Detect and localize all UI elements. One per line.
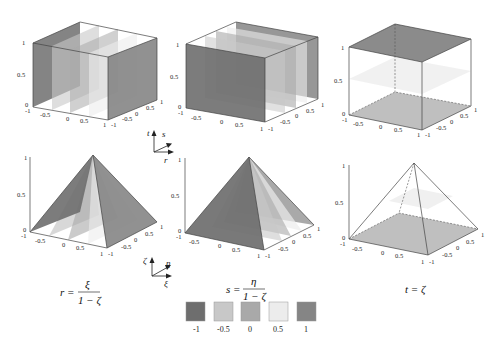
x-tick: -0.5 — [352, 245, 362, 252]
y-tick: 0.5 — [303, 232, 311, 239]
axis-label-r: r — [164, 155, 168, 165]
legend-swatch-minus-1 — [186, 302, 205, 321]
y-tick: -0.5 — [122, 115, 132, 122]
x-tick: 0.5 — [235, 121, 243, 128]
legend-swatch-0-5 — [269, 302, 288, 321]
y-tick: 0.5 — [306, 107, 314, 114]
z-tick: 0.5 — [171, 192, 179, 199]
y-tick: 1 — [160, 98, 163, 105]
z-tick: 0.5 — [170, 73, 178, 80]
y-tick: 1 — [160, 223, 163, 230]
legend-swatch-1 — [297, 302, 316, 321]
y-tick: -0.5 — [280, 118, 290, 125]
legend-label: -0.5 — [217, 325, 230, 334]
equation-r-numerator: ξ — [85, 278, 90, 291]
axis-label-s: s — [162, 129, 166, 139]
x-tick: 0 — [220, 118, 223, 125]
y-tick: 0 — [456, 244, 459, 251]
x-tick: -1 — [340, 240, 345, 247]
y-tick: -1 — [265, 252, 270, 259]
y-tick: 0.5 — [460, 112, 468, 119]
equation-t: t = ζ — [405, 283, 427, 296]
y-tick: -0.5 — [121, 243, 131, 250]
panel-cube-t: 1 0.5 0 -1 -0.5 0 0.5 1 -1 -0.5 0 0.5 1 — [334, 24, 477, 138]
x-tick: 0 — [381, 249, 384, 256]
equation-r: r = ξ 1 − ζ — [60, 278, 102, 307]
y-tick: 0 — [134, 236, 137, 243]
y-tick: -1 — [429, 258, 434, 265]
y-tick: -0.5 — [278, 245, 288, 252]
x-tick: -0.5 — [189, 238, 199, 245]
panel-pyramid-t: 1 0.5 0 -1 -0.5 0 0.5 1 -1 -0.5 0 0.5 1 — [335, 162, 484, 265]
x-tick: -1 — [21, 232, 26, 239]
axis-label-t: t — [147, 128, 150, 138]
x-tick: -0.5 — [40, 111, 50, 118]
y-tick: 0.5 — [145, 230, 153, 237]
y-tick: -1 — [111, 121, 116, 128]
x-tick: 1 — [100, 250, 103, 257]
x-tick: 0 — [66, 115, 69, 122]
x-tick: -1 — [25, 107, 30, 114]
iso-plane-t-0-5 — [349, 57, 471, 94]
x-tick: 0.5 — [394, 126, 402, 133]
legend-label: 0 — [248, 325, 252, 334]
z-tick: 0.5 — [17, 71, 25, 78]
x-tick: 1 — [421, 258, 424, 265]
y-tick: 1 — [481, 231, 484, 238]
x-tick: -0.5 — [35, 237, 45, 244]
x-tick: -0.5 — [353, 120, 363, 127]
z-tick: 1 — [342, 162, 345, 169]
legend-swatch-minus-0-5 — [214, 302, 233, 321]
y-tick: 1 — [474, 106, 477, 113]
z-tick: 0.5 — [334, 77, 342, 84]
legend-swatch-0 — [241, 302, 260, 321]
x-tick: -1 — [176, 233, 181, 240]
y-tick: 1 — [321, 101, 324, 108]
x-tick: 0.5 — [76, 244, 84, 251]
equation-s-lhs: s = — [226, 283, 240, 295]
y-tick: 0 — [450, 118, 453, 125]
x-tick: 0 — [379, 123, 382, 130]
axis-label-zeta: ζ — [143, 256, 148, 266]
x-tick: 1 — [257, 252, 260, 259]
panel-pyramid-r: 1 0.5 0 -1 -0.5 0 0.5 1 -1 -0.5 0 0.5 1 — [17, 154, 163, 257]
x-tick: -1 — [342, 116, 347, 123]
y-tick: -1 — [108, 250, 113, 257]
figure-canvas: 1 0.5 0 -1 -0.5 0 0.5 1 -1 -0.5 0 0.5 1 … — [0, 0, 499, 352]
y-tick: -0.5 — [442, 251, 452, 258]
z-tick: 1 — [341, 44, 344, 51]
panel-cube-r: 1 0.5 0 -1 -0.5 0 0.5 1 -1 -0.5 0 0.5 1 — [17, 22, 163, 128]
iso-plane-t-0-5 — [389, 188, 453, 209]
legend-label: 0.5 — [273, 325, 283, 334]
legend-label: -1 — [193, 325, 200, 334]
x-tick: 0 — [218, 242, 221, 249]
panel-pyramid-s: 1 0.5 0 -1 -0.5 0 0.5 1 -1 -0.5 0 0.5 1 — [171, 156, 320, 259]
iso-plane-t-1 — [349, 24, 471, 62]
z-tick: 0.5 — [17, 191, 25, 198]
equation-s-numerator: η — [251, 275, 256, 287]
axis-label-eta: η — [166, 258, 171, 268]
y-tick: -0.5 — [436, 124, 446, 131]
equation-s-denominator: 1 − ζ — [243, 290, 267, 303]
z-tick: 1 — [176, 41, 179, 48]
x-tick: 1 — [260, 125, 263, 132]
x-tick: -1 — [178, 109, 183, 116]
y-tick: 0 — [292, 238, 295, 245]
equation-r-denominator: 1 − ζ — [78, 294, 102, 307]
x-tick: 1 — [103, 121, 106, 128]
y-tick: 0 — [295, 112, 298, 119]
equation-s: s = η 1 − ζ — [226, 275, 267, 303]
x-tick: 0 — [62, 241, 65, 248]
x-tick: 0.5 — [80, 117, 88, 124]
legend: -1 -0.5 0 0.5 1 — [186, 302, 316, 334]
y-tick: 0 — [135, 110, 138, 117]
y-tick: 1 — [317, 225, 320, 232]
x-tick: 0.5 — [395, 252, 403, 259]
y-tick: -1 — [268, 125, 273, 132]
legend-label: 1 — [304, 325, 308, 334]
y-tick: 0.5 — [146, 104, 154, 111]
y-tick: 0.5 — [466, 238, 474, 245]
z-tick: 1 — [22, 39, 25, 46]
x-tick: -0.5 — [191, 114, 201, 121]
z-tick: 0.5 — [335, 199, 343, 206]
